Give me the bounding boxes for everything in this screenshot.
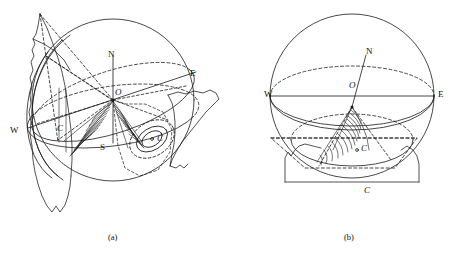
hatched-cone-b — [317, 107, 369, 165]
label-north-a: N — [108, 50, 115, 59]
label-east-a: E — [190, 69, 196, 78]
label-point-c-bottom-b: C — [364, 186, 370, 195]
label-east-b: E — [438, 90, 444, 99]
label-point-c-inner-b: C — [361, 144, 367, 153]
label-point-c-prime-a: C — [57, 124, 63, 133]
figure-container: N S E W O C C (a) N E W O C C (b) — [0, 0, 467, 262]
label-west-b: W — [264, 90, 273, 99]
horizon-ellipse-b — [270, 96, 434, 130]
label-north-b: N — [366, 47, 373, 56]
caption-panel-a: (a) — [108, 232, 117, 242]
vertical-marks-a — [59, 88, 66, 152]
label-west-a: W — [10, 126, 19, 135]
center-point-a — [112, 99, 115, 102]
label-center-o-a: O — [115, 88, 122, 97]
label-point-c-a: C — [157, 134, 163, 143]
panel-a-drawing — [0, 0, 234, 262]
cone-dashed-a — [113, 100, 172, 176]
point-c-marker-b — [356, 149, 359, 152]
caption-panel-b: (b) — [344, 232, 354, 242]
label-center-o-b: O — [349, 81, 356, 90]
center-point-b — [351, 106, 354, 109]
panel-b-drawing — [233, 0, 467, 262]
lower-ellipse-b — [291, 114, 413, 166]
label-south-a: S — [100, 143, 105, 152]
